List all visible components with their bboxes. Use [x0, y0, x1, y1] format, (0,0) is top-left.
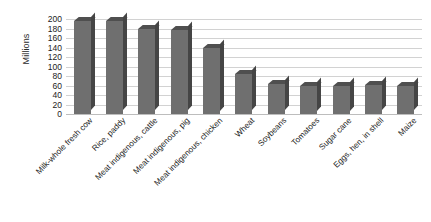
- bar-slot: [325, 19, 357, 114]
- y-axis-tick-40: 40: [53, 91, 62, 99]
- y-axis-tick-140: 140: [48, 44, 62, 52]
- bar-slot: [131, 19, 163, 114]
- bar-slot: [357, 19, 389, 114]
- bar-slot: [98, 19, 130, 114]
- x-axis-label: Wheat: [233, 116, 256, 139]
- bar-side-face: [252, 65, 256, 110]
- bar-side-face: [285, 76, 289, 110]
- x-axis-line: [66, 114, 422, 115]
- y-axis-tick-160: 160: [48, 34, 62, 42]
- y-axis-tick-20: 20: [53, 101, 62, 109]
- bar-slot: [66, 19, 98, 114]
- bar[interactable]: [300, 86, 317, 115]
- y-axis-tick-100: 100: [48, 63, 62, 71]
- y-axis-tick-120: 120: [48, 53, 62, 61]
- y-axis-tick-labels: 200180160140120100806040200: [36, 0, 62, 222]
- bar-side-face: [414, 78, 418, 110]
- bar[interactable]: [203, 48, 220, 115]
- bar-side-face: [91, 13, 95, 110]
- bar-side-face: [382, 76, 386, 110]
- bar-slot: [228, 19, 260, 114]
- y-axis-title: Millions: [21, 19, 31, 79]
- bar[interactable]: [333, 86, 350, 115]
- bar-side-face: [220, 39, 224, 110]
- bar[interactable]: [138, 29, 155, 114]
- bar[interactable]: [235, 74, 252, 114]
- bar-side-face: [188, 21, 192, 110]
- x-axis-category-labels: Milk-whole fresh cowRice, paddyMeat indi…: [66, 116, 422, 222]
- bar[interactable]: [74, 21, 91, 114]
- y-axis-tick-200: 200: [48, 15, 62, 23]
- y-axis-tick-180: 180: [48, 25, 62, 33]
- bar-side-face: [317, 77, 321, 110]
- x-axis-label: Meat indigenous, pig: [132, 116, 192, 176]
- bar-series: [66, 19, 422, 114]
- bar-side-face: [155, 21, 159, 110]
- bar-slot: [260, 19, 292, 114]
- x-axis-label: Soybeans: [257, 116, 289, 148]
- bar-slot: [293, 19, 325, 114]
- bar-side-face: [123, 13, 127, 110]
- x-axis-label: Meat indigenous, chicken: [152, 116, 224, 188]
- bar[interactable]: [171, 30, 188, 114]
- plot-area: [66, 19, 422, 114]
- y-axis-tick-80: 80: [53, 72, 62, 80]
- bar-chart: Millions 200180160140120100806040200 Mil…: [0, 0, 431, 222]
- x-axis-label: Maize: [396, 116, 418, 138]
- bar-slot: [195, 19, 227, 114]
- y-axis-tick-0: 0: [57, 110, 62, 118]
- bar-slot: [163, 19, 195, 114]
- x-axis-label: Tomatoes: [290, 116, 321, 147]
- bar[interactable]: [397, 86, 414, 114]
- x-axis-label: Meat indigenous, cattle: [93, 116, 159, 182]
- y-axis-tick-60: 60: [53, 82, 62, 90]
- bar[interactable]: [365, 85, 382, 114]
- bar-side-face: [350, 77, 354, 110]
- bar-slot: [390, 19, 422, 114]
- bar[interactable]: [106, 21, 123, 114]
- bar[interactable]: [268, 84, 285, 114]
